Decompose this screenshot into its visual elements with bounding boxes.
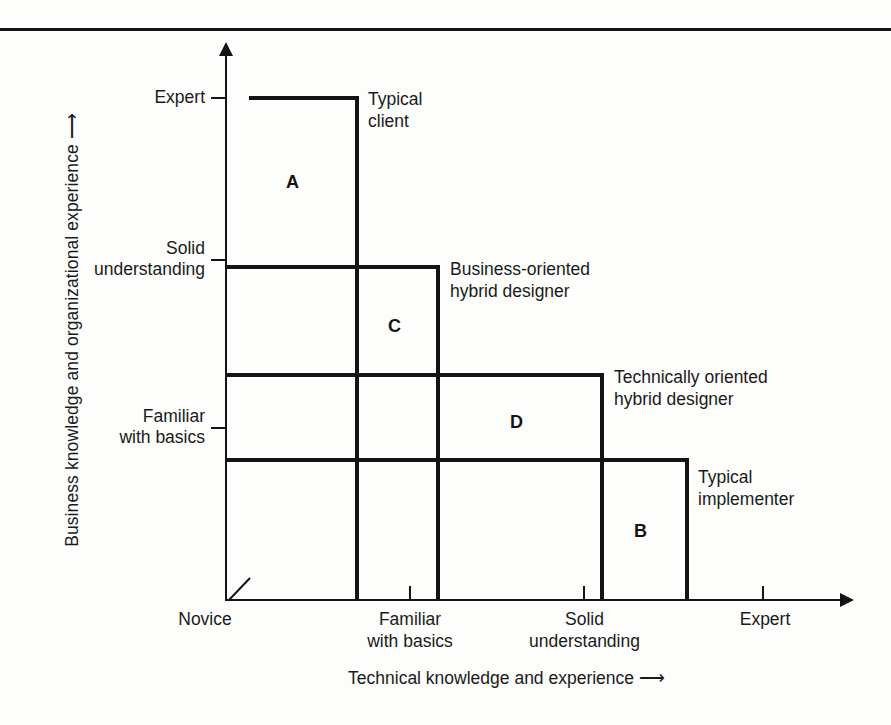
y-tick-label-familiar-with-basics: Familiar with basics	[30, 406, 205, 448]
y-axis-title-text: Business knowledge and organizational ex…	[62, 144, 82, 547]
region-label-b: B	[634, 521, 647, 542]
x-tick-label-expert: Expert	[700, 608, 830, 630]
y-tick-expert	[211, 97, 227, 99]
region-a-right-edge	[355, 96, 359, 601]
x-tick-label-solid-line2: understanding	[512, 630, 657, 652]
x-tick-label-familiar-line2: with basics	[340, 630, 480, 652]
region-a-top-edge	[249, 96, 359, 100]
region-c-top-edge	[226, 265, 440, 269]
y-tick-label-solid-line2: understanding	[30, 259, 205, 280]
region-b-top-edge	[226, 458, 689, 462]
region-label-a: A	[286, 172, 299, 193]
x-tick-solid-understanding	[583, 586, 585, 601]
region-c-right-edge	[436, 265, 440, 601]
y-tick-label-expert: Expert	[60, 87, 205, 108]
y-axis-title: Business knowledge and organizational ex…	[62, 71, 83, 591]
x-axis-title: Technical knowledge and experience ⟶	[226, 668, 786, 689]
x-tick-label-novice: Novice	[140, 608, 270, 630]
callout-business-hybrid-line2: hybrid designer	[450, 280, 590, 302]
callout-typical-client-line1: Typical	[368, 88, 422, 110]
y-tick-label-solid-line1: Solid	[30, 238, 205, 259]
y-axis-line	[225, 52, 227, 601]
y-tick-solid-understanding	[211, 259, 227, 261]
callout-technical-hybrid-line2: hybrid designer	[614, 388, 768, 410]
origin-break-mark-icon	[228, 575, 254, 601]
callout-technical-hybrid-line1: Technically oriented	[614, 366, 768, 388]
callout-business-hybrid-designer: Business-oriented hybrid designer	[450, 258, 590, 302]
callout-typical-implementer: Typical implementer	[698, 466, 794, 510]
y-axis-arrowhead-icon	[219, 42, 233, 56]
region-b-right-edge	[685, 458, 689, 601]
y-tick-familiar-with-basics	[211, 427, 227, 429]
callout-typical-implementer-line1: Typical	[698, 466, 794, 488]
x-tick-label-novice-line1: Novice	[140, 608, 270, 630]
region-d-top-edge	[226, 373, 604, 377]
x-axis-arrow-glyph: ⟶	[639, 668, 664, 689]
callout-typical-implementer-line2: implementer	[698, 488, 794, 510]
x-tick-label-familiar-line1: Familiar	[340, 608, 480, 630]
y-axis-arrow-glyph: ⟶	[62, 114, 83, 139]
y-tick-label-familiar-line2: with basics	[30, 427, 205, 448]
x-axis-arrowhead-icon	[840, 593, 854, 607]
y-tick-label-solid-understanding: Solid understanding	[30, 238, 205, 280]
region-d-right-edge	[600, 373, 604, 601]
x-tick-label-solid-line1: Solid	[512, 608, 657, 630]
x-axis-title-text: Technical knowledge and experience	[348, 668, 634, 688]
region-label-d: D	[510, 412, 523, 433]
callout-business-hybrid-line1: Business-oriented	[450, 258, 590, 280]
callout-typical-client-line2: client	[368, 110, 422, 132]
x-tick-expert	[762, 586, 764, 601]
x-tick-label-expert-line1: Expert	[700, 608, 830, 630]
x-axis-line	[226, 599, 846, 601]
x-tick-label-familiar-with-basics: Familiar with basics	[340, 608, 480, 652]
callout-typical-client: Typical client	[368, 88, 422, 132]
header-rule	[0, 28, 891, 31]
x-tick-label-solid-understanding: Solid understanding	[512, 608, 657, 652]
chart-figure: Business knowledge and organizational ex…	[0, 0, 891, 725]
callout-technical-hybrid-designer: Technically oriented hybrid designer	[614, 366, 768, 410]
x-tick-familiar-with-basics	[409, 586, 411, 601]
y-tick-label-expert-line1: Expert	[60, 87, 205, 108]
y-tick-label-familiar-line1: Familiar	[30, 406, 205, 427]
region-label-c: C	[388, 316, 401, 337]
